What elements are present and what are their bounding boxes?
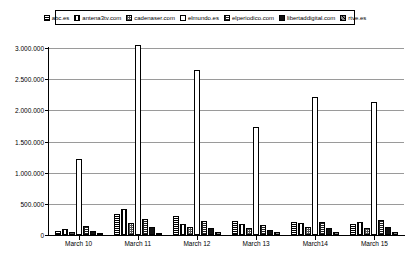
bar-group: March14: [286, 48, 345, 235]
bar-cadenaser-com[interactable]: [246, 228, 252, 235]
bar-rtve-es[interactable]: [274, 232, 280, 235]
legend-label: abc.es: [52, 15, 70, 21]
bar-cadenaser-com[interactable]: [69, 232, 75, 235]
bar-libertaddigital-com[interactable]: [149, 227, 155, 235]
bar-group-bars: [49, 48, 108, 235]
bar-group: March 11: [108, 48, 167, 235]
bar-groups: March 10March 11March 12March 13March14M…: [49, 48, 404, 235]
y-axis-tick-label: 2.500.000: [15, 76, 44, 83]
legend-item-antena3tv-com[interactable]: antena3tv.com: [74, 15, 121, 21]
y-axis-tick-label: 1.000.000: [15, 169, 44, 176]
legend-item-elperiodico-com[interactable]: elperiodico.com: [224, 15, 274, 21]
bar-chart: abc.esantena3tv.comcadenaser.comelmundo.…: [0, 0, 410, 262]
legend-label: elperiodico.com: [232, 15, 274, 21]
legend-label: elmundo.es: [188, 15, 219, 21]
bar-group: March 12: [167, 48, 226, 235]
bar-libertaddigital-com[interactable]: [208, 228, 214, 235]
bar-elperiodico-com[interactable]: [201, 221, 207, 235]
x-axis-tick-label: March 12: [167, 240, 226, 247]
bar-group: March 13: [227, 48, 286, 235]
bar-elmundo-es[interactable]: [194, 70, 200, 235]
bar-abc-es[interactable]: [232, 221, 238, 235]
y-axis-tick-label: 3.000.000: [15, 45, 44, 52]
bar-group-bars: [286, 48, 345, 235]
bar-cadenaser-com[interactable]: [187, 227, 193, 235]
legend-swatch-icon: [340, 15, 346, 21]
bar-abc-es[interactable]: [173, 216, 179, 235]
bar-group-bars: [227, 48, 286, 235]
y-axis-tick-label: 500.000: [21, 200, 45, 207]
x-axis-tick-label: March 13: [227, 240, 286, 247]
legend-label: cadenaser.com: [134, 15, 175, 21]
y-axis-tick-label: 0: [40, 232, 44, 239]
y-axis-tick-label: 1.500.000: [15, 138, 44, 145]
bar-antena3tv-com[interactable]: [298, 223, 304, 235]
bar-libertaddigital-com[interactable]: [90, 231, 96, 235]
bar-elmundo-es[interactable]: [253, 127, 259, 235]
legend-swatch-icon: [74, 15, 80, 21]
bar-antena3tv-com[interactable]: [121, 209, 127, 235]
legend-label: libertaddigital.com: [287, 15, 335, 21]
bar-elperiodico-com[interactable]: [142, 219, 148, 235]
legend-swatch-icon: [279, 15, 285, 21]
bar-group: March 10: [49, 48, 108, 235]
bar-cadenaser-com[interactable]: [364, 228, 370, 235]
legend-swatch-icon: [44, 15, 50, 21]
chart-legend: abc.esantena3tv.comcadenaser.comelmundo.…: [55, 10, 355, 25]
bar-cadenaser-com[interactable]: [128, 223, 134, 235]
legend-item-libertaddigital-com[interactable]: libertaddigital.com: [279, 15, 335, 21]
legend-item-cadenaser-com[interactable]: cadenaser.com: [126, 15, 175, 21]
bar-elperiodico-com[interactable]: [83, 226, 89, 235]
bar-group: March 15: [345, 48, 404, 235]
legend-swatch-icon: [224, 15, 230, 21]
bar-libertaddigital-com[interactable]: [326, 228, 332, 235]
y-tick-mark: [45, 235, 49, 236]
legend-item-abc-es[interactable]: abc.es: [44, 15, 70, 21]
y-axis-tick-label: 2.000.000: [15, 107, 44, 114]
bar-antena3tv-com[interactable]: [180, 224, 186, 235]
bar-elperiodico-com[interactable]: [260, 225, 266, 235]
bar-elperiodico-com[interactable]: [319, 222, 325, 235]
bar-group-bars: [345, 48, 404, 235]
bar-rtve-es[interactable]: [215, 232, 221, 235]
x-axis-tick-label: March 10: [49, 240, 108, 247]
bar-antena3tv-com[interactable]: [62, 229, 68, 235]
bar-cadenaser-com[interactable]: [305, 227, 311, 235]
bar-antena3tv-com[interactable]: [357, 222, 363, 235]
legend-item-rtve-es[interactable]: rtve.es: [340, 15, 366, 21]
bar-libertaddigital-com[interactable]: [267, 230, 273, 235]
x-axis-line: [48, 235, 405, 236]
legend-label: rtve.es: [348, 15, 366, 21]
bar-elmundo-es[interactable]: [312, 97, 318, 235]
bar-elmundo-es[interactable]: [76, 159, 82, 235]
legend-swatch-icon: [180, 15, 186, 21]
bar-abc-es[interactable]: [291, 222, 297, 235]
bar-abc-es[interactable]: [114, 214, 120, 235]
x-axis-tick-label: March 15: [345, 240, 404, 247]
bar-rtve-es[interactable]: [156, 233, 162, 235]
legend-swatch-icon: [126, 15, 132, 21]
bar-group-bars: [108, 48, 167, 235]
bar-libertaddigital-com[interactable]: [385, 227, 391, 235]
legend-label: antena3tv.com: [82, 15, 121, 21]
legend-item-elmundo-es[interactable]: elmundo.es: [180, 15, 219, 21]
bar-rtve-es[interactable]: [97, 233, 103, 235]
bar-rtve-es[interactable]: [333, 232, 339, 235]
bar-abc-es[interactable]: [55, 231, 61, 235]
bar-antena3tv-com[interactable]: [239, 224, 245, 235]
x-axis-tick-label: March 11: [108, 240, 167, 247]
bar-group-bars: [167, 48, 226, 235]
plot-area: 0500.0001.000.0001.500.0002.000.0002.500…: [49, 48, 404, 235]
bar-elmundo-es[interactable]: [371, 102, 377, 235]
bar-abc-es[interactable]: [350, 224, 356, 235]
bar-elperiodico-com[interactable]: [378, 220, 384, 235]
x-axis-tick-label: March14: [286, 240, 345, 247]
bar-rtve-es[interactable]: [392, 232, 398, 235]
bar-elmundo-es[interactable]: [135, 45, 141, 235]
